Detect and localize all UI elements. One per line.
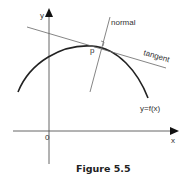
point-p-label: p (90, 46, 95, 55)
curve-y-equals-f-of-x (18, 46, 148, 98)
tangent-normal-diagram: y x 0 normal tangent p y=f(x) Figure 5.5 (0, 0, 188, 183)
curve-label: y=f(x) (140, 104, 161, 113)
normal-label: normal (111, 18, 136, 27)
y-axis-label: y (40, 11, 44, 20)
y-axis-arrow-icon (45, 8, 53, 17)
axes (13, 8, 179, 164)
figure-caption: Figure 5.5 (76, 163, 131, 174)
x-axis-arrow-icon (170, 127, 179, 135)
origin-label: 0 (45, 133, 50, 142)
x-axis-label: x (171, 136, 175, 145)
